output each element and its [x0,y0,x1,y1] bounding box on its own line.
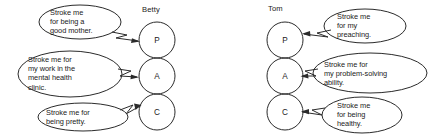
betty-parent-balloon-tail [112,32,140,43]
tom-child-label: C [268,108,302,117]
betty-adult-balloon-text: Stroke me for my work in the mental heal… [28,55,75,92]
betty-child-balloon-text: Stroke me for being pretty. [46,108,90,126]
betty-child-label: C [140,108,174,117]
tom-parent-balloon-tail [302,30,331,37]
betty-child-balloon-tail [120,104,142,115]
tom-adult-label: A [268,72,302,81]
person-label-betty: Betty [142,5,160,14]
tom-adult-balloon-text: Stroke me for my problem-solving ability… [324,60,387,88]
betty-parent-label: P [140,36,174,45]
tom-parent-balloon-text: Stroke me for my preaching. [337,12,371,40]
betty-parent-balloon-text: Stroke me for being a good mother. [50,8,93,36]
ego-state-diagram: Betty Tom P A C P A C Stroke me for bein… [0,0,435,139]
betty-adult-label: A [140,72,174,81]
person-label-tom: Tom [268,4,283,13]
tom-child-balloon-tail [301,108,325,115]
tom-child-balloon-text: Stroke me for being healthy. [337,101,370,129]
tom-parent-label: P [268,36,302,45]
